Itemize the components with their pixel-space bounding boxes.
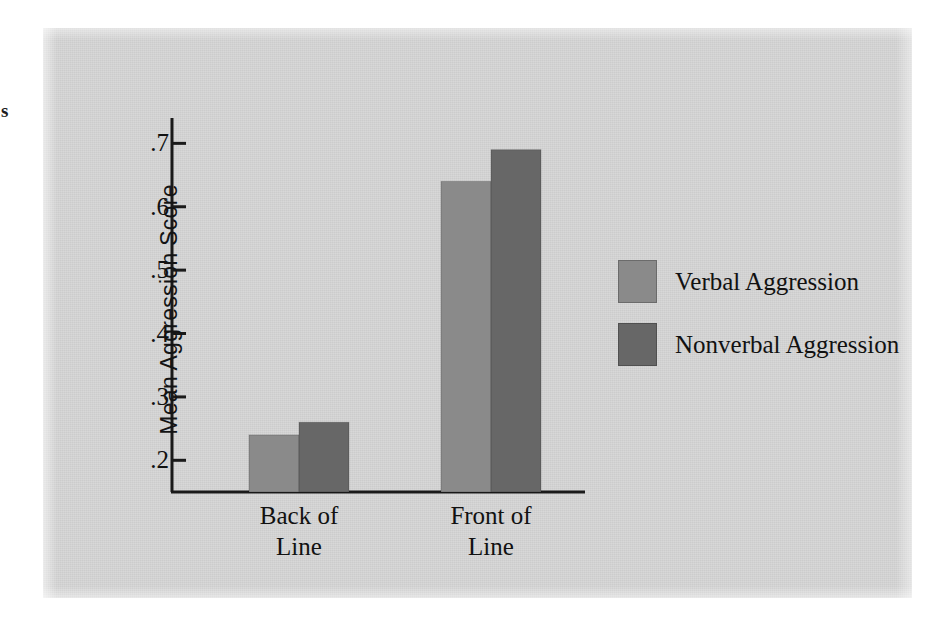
x-category-label-front-of-line: Front of Line	[401, 501, 581, 562]
x-category-label-line1: Front of	[450, 502, 531, 529]
y-axis-title: Mean Aggression Score	[156, 175, 183, 445]
legend-label-verbal-aggression: Verbal Aggression	[675, 268, 859, 296]
x-category-label-line1: Back of	[260, 502, 338, 529]
legend-item-nonverbal-aggression: Nonverbal Aggression	[618, 313, 908, 376]
y-tick-label-7: .7	[123, 130, 169, 155]
figure-panel: .7 .6 .5 .4 .3 .2 Mean Aggression Score …	[43, 28, 912, 598]
legend-item-verbal-aggression: Verbal Aggression	[618, 250, 908, 313]
page-edge-stray-text: s	[1, 100, 8, 122]
x-category-label-line2: Line	[401, 532, 581, 563]
x-category-label-line2: Line	[209, 532, 389, 563]
legend-label-nonverbal-aggression: Nonverbal Aggression	[675, 331, 899, 359]
plot-area: .7 .6 .5 .4 .3 .2 Mean Aggression Score …	[43, 28, 912, 598]
x-category-label-back-of-line: Back of Line	[209, 501, 389, 562]
legend-swatch-verbal-aggression	[618, 260, 657, 303]
chart-bars	[249, 150, 541, 492]
y-tick-label-2: .2	[123, 447, 169, 472]
legend-swatch-nonverbal-aggression	[618, 323, 657, 366]
chart-legend: Verbal Aggression Nonverbal Aggression	[618, 250, 908, 376]
